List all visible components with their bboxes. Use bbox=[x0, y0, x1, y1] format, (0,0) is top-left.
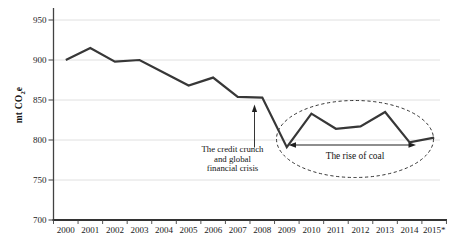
y-tick-label: 800 bbox=[33, 135, 47, 145]
y-axis-title-subscript: 2 bbox=[19, 91, 26, 94]
credit-crunch-annotation: The credit crunch and global financial c… bbox=[177, 145, 288, 174]
y-axis-title-text: mt CO bbox=[14, 95, 24, 124]
y-axis-title: mt CO2e bbox=[14, 55, 28, 155]
credit-crunch-line3: financial crisis bbox=[177, 164, 288, 174]
x-tick-label: 2002 bbox=[106, 225, 124, 235]
x-tick-label: 2000 bbox=[57, 225, 76, 235]
x-tick-label: 2010 bbox=[302, 225, 321, 235]
credit-crunch-arrowhead bbox=[252, 105, 257, 113]
x-tick-label: 2013 bbox=[376, 225, 395, 235]
y-tick-label: 900 bbox=[33, 55, 47, 65]
rise-of-coal-ellipse bbox=[277, 101, 434, 178]
x-tick-label: 2008 bbox=[253, 225, 272, 235]
x-tick-label: 2014 bbox=[401, 225, 420, 235]
emissions-line-chart: 7007508008509009502000200120022003200420… bbox=[0, 0, 460, 245]
chart-plot-area: 7007508008509009502000200120022003200420… bbox=[0, 0, 460, 245]
y-tick-label: 850 bbox=[33, 95, 47, 105]
x-tick-label: 2006 bbox=[204, 225, 223, 235]
x-tick-label: 2015* bbox=[423, 225, 446, 235]
rise-of-coal-label: The rise of coal bbox=[295, 151, 415, 161]
x-tick-label: 2001 bbox=[81, 225, 99, 235]
y-tick-label: 700 bbox=[33, 215, 47, 225]
x-tick-label: 2012 bbox=[352, 225, 370, 235]
x-tick-label: 2005 bbox=[180, 225, 199, 235]
x-tick-label: 2009 bbox=[278, 225, 297, 235]
x-tick-label: 2004 bbox=[155, 225, 174, 235]
y-axis-title-suffix: e bbox=[14, 87, 24, 91]
x-tick-label: 2011 bbox=[327, 225, 345, 235]
y-tick-label: 750 bbox=[33, 175, 47, 185]
emissions-series-line bbox=[66, 48, 434, 147]
x-tick-label: 2007 bbox=[229, 225, 248, 235]
x-tick-label: 2003 bbox=[130, 225, 149, 235]
y-tick-label: 950 bbox=[33, 15, 47, 25]
